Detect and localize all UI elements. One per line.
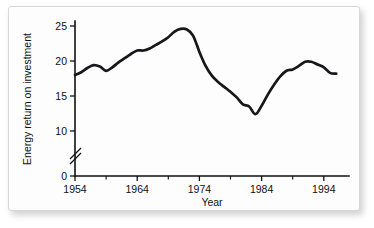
x-axis-title: Year xyxy=(201,196,223,208)
y-tick-label-0: 0 xyxy=(61,170,67,182)
x-tick-label-1954: 1954 xyxy=(63,183,87,195)
x-axis-tick-labels: 19541964197419841994 xyxy=(63,183,335,195)
x-axis: 19541964197419841994 Year xyxy=(63,176,349,208)
y-tick-label-25: 25 xyxy=(55,20,67,32)
figure-panel: 010152025 Energy return on investment 19… xyxy=(8,6,360,211)
y-axis-tick-labels: 010152025 xyxy=(55,20,67,182)
y-axis-title: Energy return on investment xyxy=(21,33,33,165)
eroi-line-chart: 010152025 Energy return on investment 19… xyxy=(9,7,361,212)
y-tick-label-20: 20 xyxy=(55,55,67,67)
eroi-data-series xyxy=(75,29,336,115)
y-tick-label-10: 10 xyxy=(55,125,67,137)
x-tick-label-1964: 1964 xyxy=(126,183,150,195)
x-tick-label-1994: 1994 xyxy=(312,183,336,195)
y-tick-label-15: 15 xyxy=(55,90,67,102)
x-tick-label-1974: 1974 xyxy=(188,183,212,195)
x-tick-label-1984: 1984 xyxy=(250,183,274,195)
y-axis: 010152025 Energy return on investment xyxy=(21,20,81,182)
